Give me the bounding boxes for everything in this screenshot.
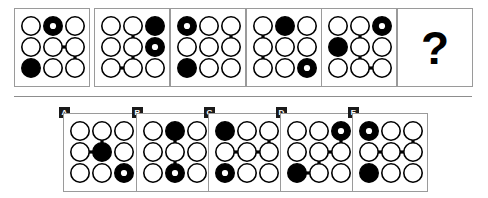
empty-node	[298, 17, 316, 35]
empty-node	[188, 143, 206, 161]
empty-node	[382, 122, 400, 140]
empty-node	[260, 164, 278, 182]
empty-node	[188, 164, 206, 182]
empty-node	[93, 164, 111, 182]
filled-node	[360, 164, 378, 182]
sequence-panel-5	[321, 8, 397, 87]
empty-node	[276, 38, 294, 56]
empty-node	[44, 38, 62, 56]
node-white-dot	[338, 128, 344, 134]
empty-node	[115, 122, 133, 140]
empty-node	[166, 143, 184, 161]
empty-node	[332, 164, 350, 182]
empty-node	[351, 17, 369, 35]
sequence-panel-2	[94, 8, 170, 87]
node-grid	[137, 114, 213, 190]
empty-node	[66, 59, 84, 77]
question-mark: ?	[398, 9, 472, 86]
empty-node	[373, 59, 391, 77]
empty-node	[124, 38, 142, 56]
empty-node	[66, 38, 84, 56]
answer-option-a[interactable]	[63, 113, 139, 192]
question-panel: ?	[397, 8, 473, 87]
answer-option-c[interactable]	[208, 113, 284, 192]
empty-node	[200, 17, 218, 35]
empty-node	[200, 38, 218, 56]
node-grid	[64, 114, 140, 190]
filled-node	[329, 38, 347, 56]
empty-node	[71, 143, 89, 161]
empty-node	[66, 17, 84, 35]
empty-node	[44, 59, 62, 77]
empty-node	[144, 122, 162, 140]
filled-node	[166, 122, 184, 140]
node-white-dot	[50, 23, 56, 29]
empty-node	[310, 122, 328, 140]
node-grid	[95, 9, 171, 85]
empty-node	[404, 143, 422, 161]
empty-node	[102, 38, 120, 56]
node-white-dot	[304, 65, 310, 71]
empty-node	[329, 17, 347, 35]
empty-node	[254, 59, 272, 77]
node-grid	[209, 114, 285, 190]
empty-node	[276, 59, 294, 77]
empty-node	[144, 143, 162, 161]
node-white-dot	[172, 170, 178, 176]
node-white-dot	[366, 128, 372, 134]
empty-node	[222, 17, 240, 35]
filled-node	[146, 17, 164, 35]
filled-node	[22, 59, 40, 77]
empty-node	[238, 143, 256, 161]
filled-node	[276, 17, 294, 35]
node-white-dot	[121, 170, 127, 176]
node-grid	[171, 9, 247, 85]
node-white-dot	[222, 170, 228, 176]
node-white-dot	[379, 23, 385, 29]
empty-node	[298, 38, 316, 56]
empty-node	[404, 164, 422, 182]
empty-node	[351, 38, 369, 56]
filled-node	[93, 143, 111, 161]
empty-node	[404, 122, 422, 140]
empty-node	[288, 122, 306, 140]
empty-node	[188, 122, 206, 140]
empty-node	[310, 164, 328, 182]
empty-node	[351, 59, 369, 77]
empty-node	[373, 38, 391, 56]
filled-node	[288, 164, 306, 182]
sequence-panel-3	[170, 8, 246, 87]
empty-node	[178, 38, 196, 56]
answer-option-e[interactable]	[352, 113, 428, 192]
empty-node	[238, 164, 256, 182]
row-divider	[14, 96, 472, 97]
empty-node	[102, 59, 120, 77]
node-grid	[353, 114, 429, 190]
empty-node	[360, 143, 378, 161]
node-grid	[322, 9, 398, 85]
empty-node	[124, 59, 142, 77]
empty-node	[254, 17, 272, 35]
sequence-panel-1	[14, 8, 90, 87]
empty-node	[288, 143, 306, 161]
empty-node	[332, 143, 350, 161]
empty-node	[310, 143, 328, 161]
empty-node	[71, 122, 89, 140]
empty-node	[216, 143, 234, 161]
empty-node	[238, 122, 256, 140]
empty-node	[115, 143, 133, 161]
empty-node	[254, 38, 272, 56]
empty-node	[382, 164, 400, 182]
answer-option-d[interactable]	[280, 113, 356, 192]
empty-node	[144, 164, 162, 182]
node-grid	[247, 9, 323, 85]
empty-node	[22, 17, 40, 35]
empty-node	[146, 59, 164, 77]
empty-node	[260, 143, 278, 161]
answer-option-b[interactable]	[136, 113, 212, 192]
filled-node	[178, 59, 196, 77]
node-white-dot	[152, 44, 158, 50]
empty-node	[200, 59, 218, 77]
empty-node	[222, 38, 240, 56]
node-grid	[281, 114, 357, 190]
